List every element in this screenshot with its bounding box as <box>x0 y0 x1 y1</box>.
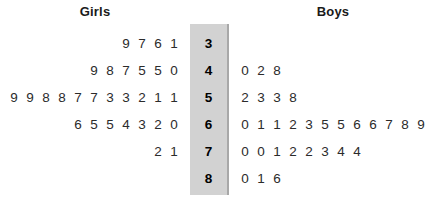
left-leaves: 6554320 <box>0 111 186 138</box>
stem-row: 8016 <box>0 165 428 192</box>
leaf-digit: 5 <box>150 57 166 84</box>
leaf-digit: 4 <box>118 111 134 138</box>
leaf-digit: 0 <box>237 111 253 138</box>
stem-row: 97613 <box>0 30 428 57</box>
left-leaves: 21 <box>0 138 186 165</box>
stem-row: 21700122344 <box>0 138 428 165</box>
leaf-digit: 2 <box>253 57 269 84</box>
leaf-digit: 7 <box>134 30 150 57</box>
right-leaves: 2338 <box>237 84 428 111</box>
leaf-digit: 1 <box>166 84 182 111</box>
leaf-digit: 9 <box>118 30 134 57</box>
left-leaves: 99887733211 <box>0 84 186 111</box>
right-leaves: 028 <box>237 57 428 84</box>
stem-digit: 5 <box>190 84 227 111</box>
stem-digit: 3 <box>190 30 227 57</box>
leaf-digit: 2 <box>150 111 166 138</box>
leaf-digit: 8 <box>38 84 54 111</box>
leaf-digit: 5 <box>86 111 102 138</box>
stem-row: 65543206011235566789 <box>0 111 428 138</box>
leaf-digit: 5 <box>102 111 118 138</box>
leaf-digit: 3 <box>134 111 150 138</box>
leaf-digit: 7 <box>70 84 86 111</box>
leaf-digit: 2 <box>237 84 253 111</box>
leaf-digit: 3 <box>269 84 285 111</box>
leaf-digit: 6 <box>70 111 86 138</box>
right-leaves: 016 <box>237 165 428 192</box>
leaf-digit: 0 <box>237 57 253 84</box>
leaf-digit: 8 <box>269 57 285 84</box>
left-group-header: Girls <box>0 4 190 19</box>
leaf-digit: 0 <box>237 138 253 165</box>
leaf-digit: 1 <box>269 111 285 138</box>
left-leaves: 9761 <box>0 30 186 57</box>
leaf-digit: 5 <box>134 57 150 84</box>
leaf-digit: 5 <box>317 111 333 138</box>
leaf-digit: 0 <box>253 138 269 165</box>
stem-row: 9988773321152338 <box>0 84 428 111</box>
leaf-digit: 6 <box>150 30 166 57</box>
leaf-digit: 1 <box>253 111 269 138</box>
leaf-digit: 1 <box>166 30 182 57</box>
left-leaves: 987550 <box>0 57 186 84</box>
stem-digit: 7 <box>190 138 227 165</box>
leaf-digit: 5 <box>333 111 349 138</box>
stem-and-leaf-plot: Girls Boys 97613987550402899887733211523… <box>0 0 428 201</box>
leaf-digit: 1 <box>253 165 269 192</box>
leaf-digit: 3 <box>317 138 333 165</box>
leaf-digit: 2 <box>150 138 166 165</box>
leaf-digit: 2 <box>134 84 150 111</box>
right-group-header: Boys <box>238 4 428 19</box>
leaf-digit: 2 <box>285 138 301 165</box>
leaf-digit: 3 <box>253 84 269 111</box>
leaf-digit: 2 <box>285 111 301 138</box>
leaf-digit: 4 <box>349 138 365 165</box>
stem-row: 9875504028 <box>0 57 428 84</box>
leaf-digit: 8 <box>54 84 70 111</box>
leaf-digit: 2 <box>301 138 317 165</box>
leaf-digit: 0 <box>166 111 182 138</box>
leaf-digit: 3 <box>301 111 317 138</box>
leaf-digit: 1 <box>150 84 166 111</box>
leaf-digit: 3 <box>118 84 134 111</box>
leaf-digit: 8 <box>397 111 413 138</box>
leaf-digit: 8 <box>285 84 301 111</box>
leaf-digit: 8 <box>102 57 118 84</box>
leaf-digit: 4 <box>333 138 349 165</box>
stem-digit: 8 <box>190 165 227 192</box>
leaf-digit: 6 <box>269 165 285 192</box>
leaf-digit: 1 <box>166 138 182 165</box>
right-leaves: 00122344 <box>237 138 428 165</box>
leaf-digit: 9 <box>6 84 22 111</box>
leaf-digit: 7 <box>381 111 397 138</box>
leaf-digit: 1 <box>269 138 285 165</box>
leaf-digit: 6 <box>349 111 365 138</box>
leaf-digit: 9 <box>413 111 428 138</box>
leaf-digit: 0 <box>237 165 253 192</box>
leaf-digit: 3 <box>102 84 118 111</box>
leaf-digit: 7 <box>86 84 102 111</box>
leaf-digit: 7 <box>118 57 134 84</box>
stem-digit: 4 <box>190 57 227 84</box>
right-leaves: 011235566789 <box>237 111 428 138</box>
leaf-digit: 9 <box>86 57 102 84</box>
leaf-digit: 0 <box>166 57 182 84</box>
leaf-digit: 9 <box>22 84 38 111</box>
stem-digit: 6 <box>190 111 227 138</box>
leaf-digit: 6 <box>365 111 381 138</box>
